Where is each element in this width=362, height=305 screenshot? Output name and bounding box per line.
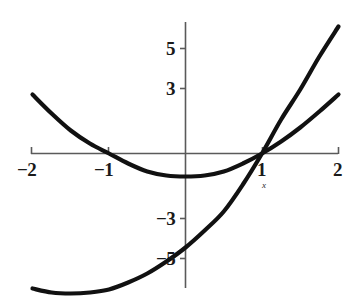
x-tick-label--2: −2 — [17, 160, 36, 179]
graph-figure: −2 −1 1 2 5 3 −3 −5 x — [0, 0, 362, 305]
plot-area — [0, 0, 362, 305]
y-tick-label--5: −5 — [156, 249, 175, 268]
x-tick-label-2: 2 — [333, 160, 342, 179]
y-tick-label-3: 3 — [166, 79, 175, 98]
x-tick-label-1: 1 — [257, 160, 266, 179]
y-tick-label-5: 5 — [166, 39, 175, 58]
x-tick-label--1: −1 — [94, 160, 113, 179]
x-axis-label: x — [262, 181, 266, 190]
y-tick-label--3: −3 — [156, 209, 175, 228]
